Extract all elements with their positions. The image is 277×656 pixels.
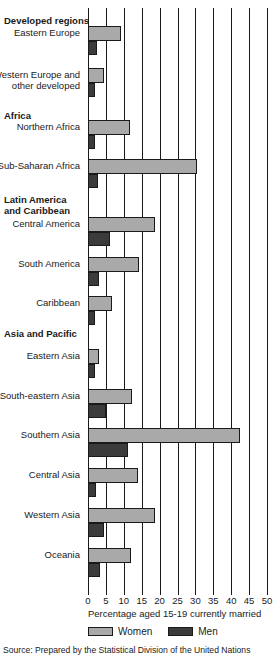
category-label: South America	[18, 258, 80, 269]
legend: WomenMen	[88, 626, 234, 637]
x-tick-label-50: 50	[262, 595, 273, 606]
x-tick-label-35: 35	[208, 595, 219, 606]
bar-men	[88, 83, 95, 97]
bar-row	[88, 548, 267, 577]
bar-women	[88, 349, 99, 364]
category-label: Central America	[12, 218, 80, 229]
gridline-50	[267, 8, 268, 588]
bar-row	[88, 508, 267, 537]
category-label-column: Eastern EuropeWestern Europe andother de…	[0, 8, 84, 588]
bar-row	[88, 120, 267, 149]
bar-row	[88, 26, 267, 55]
bar-row	[88, 68, 267, 97]
bar-row	[88, 159, 267, 188]
x-tick-45	[249, 588, 250, 595]
legend-label-men: Men	[198, 626, 217, 637]
x-tick-25	[178, 588, 179, 595]
category-label: Sub-Saharan Africa	[0, 160, 80, 171]
x-tick-label-5: 5	[103, 595, 108, 606]
source-note: Source: Prepared by the Statistical Divi…	[3, 645, 275, 655]
bar-row	[88, 257, 267, 286]
bar-row	[88, 468, 267, 497]
group-header-label: and Caribbean	[4, 205, 70, 216]
group-header-label: Asia and Pacific	[4, 328, 77, 339]
x-tick-label-40: 40	[226, 595, 237, 606]
category-label: Eastern Europe	[14, 27, 80, 38]
plot-area	[88, 8, 267, 588]
bar-rows	[88, 8, 267, 588]
x-tick-label-10: 10	[119, 595, 130, 606]
category-label: Southern Asia	[21, 429, 80, 440]
legend-item-men: Men	[168, 626, 217, 637]
category-label: South-eastern Asia	[0, 390, 80, 401]
bar-men	[88, 232, 110, 246]
bar-men	[88, 443, 128, 457]
bar-women	[88, 217, 155, 232]
x-tick-label-15: 15	[136, 595, 147, 606]
bar-women	[88, 257, 139, 272]
x-tick-label-45: 45	[244, 595, 255, 606]
bar-women	[88, 548, 131, 563]
x-tick-0	[88, 588, 89, 595]
bar-row	[88, 428, 267, 457]
bar-row	[88, 389, 267, 418]
category-label: Eastern Asia	[27, 350, 80, 361]
category-label: Western Europe andother developed	[0, 69, 80, 91]
x-tick-label-30: 30	[190, 595, 201, 606]
x-axis-tick-labels: 05101520253035404550	[88, 595, 267, 607]
category-label: Western Asia	[24, 509, 80, 520]
bar-women	[88, 508, 155, 523]
bar-men	[88, 483, 96, 497]
x-tick-label-0: 0	[85, 595, 90, 606]
bar-women	[88, 68, 104, 83]
group-header-label: Latin America	[4, 194, 66, 205]
x-tick-50	[267, 588, 268, 595]
x-tick-label-25: 25	[172, 595, 183, 606]
bar-row	[88, 296, 267, 325]
bar-women	[88, 468, 138, 483]
bar-women	[88, 428, 240, 443]
legend-item-women: Women	[88, 626, 152, 637]
x-tick-10	[124, 588, 125, 595]
bar-men	[88, 563, 100, 577]
category-label: Central Asia	[29, 469, 80, 480]
bar-women	[88, 389, 132, 404]
bar-men	[88, 135, 95, 149]
bar-men	[88, 272, 99, 286]
x-tick-30	[195, 588, 196, 595]
x-tick-5	[106, 588, 107, 595]
bar-men	[88, 41, 97, 55]
bar-men	[88, 404, 106, 418]
bar-row	[88, 217, 267, 246]
bar-women	[88, 296, 112, 311]
bar-women	[88, 159, 197, 174]
group-header-label: Developed regions	[4, 15, 89, 26]
bar-row	[88, 349, 267, 378]
bar-women	[88, 120, 130, 135]
legend-swatch-men	[168, 627, 193, 636]
chart-root: Eastern EuropeWestern Europe andother de…	[0, 0, 277, 656]
legend-label-women: Women	[118, 626, 152, 637]
x-axis-tick-marks	[88, 588, 267, 595]
x-tick-15	[142, 588, 143, 595]
bar-men	[88, 174, 98, 188]
x-tick-20	[160, 588, 161, 595]
bar-men	[88, 311, 95, 325]
bar-men	[88, 523, 104, 537]
category-label: Northern Africa	[17, 121, 80, 132]
bar-women	[88, 26, 121, 41]
category-label: Oceania	[45, 549, 80, 560]
bar-men	[88, 364, 95, 378]
legend-swatch-women	[88, 627, 113, 636]
x-tick-label-20: 20	[154, 595, 165, 606]
x-axis-title: Percentage aged 15-19 currently married	[88, 608, 261, 620]
x-tick-40	[231, 588, 232, 595]
category-label: Caribbean	[36, 297, 80, 308]
group-header-label: Africa	[4, 110, 31, 121]
x-tick-35	[213, 588, 214, 595]
